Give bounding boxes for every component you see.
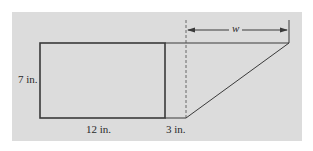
rect-width-label: 12 in. xyxy=(86,123,111,135)
arrow-right-icon xyxy=(280,28,288,33)
offset-label: 3 in. xyxy=(166,123,186,135)
w-label: w xyxy=(229,22,242,34)
arrow-left-icon xyxy=(187,28,195,33)
height-label: 7 in. xyxy=(18,73,38,85)
rectangle-shape xyxy=(40,43,165,118)
geometry-diagram xyxy=(0,0,313,151)
triangle-hypotenuse xyxy=(186,43,289,118)
